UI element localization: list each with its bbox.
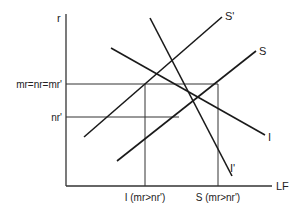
- curve-label-S-prime: S': [225, 10, 234, 22]
- quantity-label-I: I (mr>nr'): [125, 192, 166, 203]
- curve-label-I: I: [268, 131, 271, 143]
- curve-label-I-prime: I': [230, 162, 235, 174]
- curve-I-prime: [150, 18, 232, 176]
- rate-label-nr-prime: nr': [51, 112, 62, 123]
- x-axis-label: LF: [276, 180, 289, 192]
- curve-S-prime: [84, 17, 222, 137]
- quantity-label-S: S (mr>nr'): [196, 192, 240, 203]
- loanable-funds-diagram: r LF mr=nr=mr' nr' I (mr>nr') S (mr>nr')…: [0, 0, 301, 214]
- curve-label-S: S: [259, 45, 266, 57]
- y-axis-label: r: [57, 12, 61, 24]
- rate-label-mr-nr-mr: mr=nr=mr': [16, 79, 62, 90]
- curve-S: [117, 51, 256, 161]
